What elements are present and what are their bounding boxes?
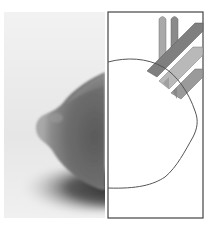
lemon-diagram	[107, 11, 205, 220]
lemon-figure	[0, 0, 210, 226]
lemon-photo-graphic	[4, 12, 105, 218]
lemon-photo	[4, 12, 105, 218]
lemon-diagram-graphic	[107, 11, 205, 220]
lemon-tip-highlight	[49, 113, 63, 123]
